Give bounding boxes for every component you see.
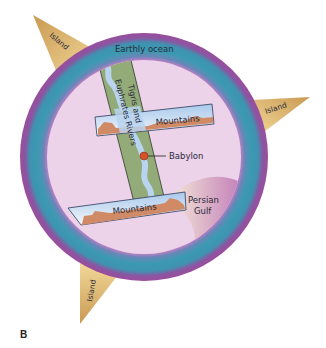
babylonian-world-map: Earthly ocean Island Island Island Tigri… [0,0,326,348]
figure-letter: B [20,329,27,340]
babylon-marker [140,152,148,160]
ocean-label: Earthly ocean [115,44,174,54]
gulf-label-line1: Persian [188,195,219,205]
babylon-label: Babylon [169,151,203,161]
gulf-label-line2: Gulf [194,206,212,216]
